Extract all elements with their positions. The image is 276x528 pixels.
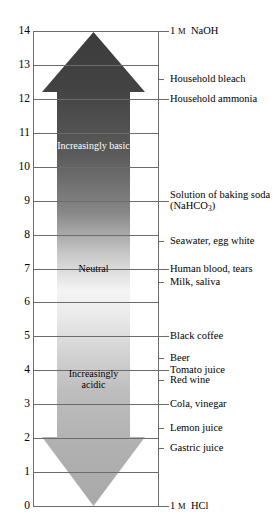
substance-label-5: Human blood, tears <box>170 263 253 275</box>
arrow-caption-0: Increasingly basic <box>57 141 130 153</box>
arrow-caption-1: Neutral <box>57 263 130 275</box>
gridline-ph-8 <box>33 235 159 236</box>
axis-tick-label-8: 8 <box>2 229 30 241</box>
tick-0 <box>158 31 169 32</box>
substance-label-14: 1 M HCl <box>170 500 208 513</box>
gridline-ph-11 <box>33 133 159 134</box>
axis-tick-label-4: 4 <box>2 365 30 377</box>
tick-12 <box>158 428 164 429</box>
axis-tick-label-7: 7 <box>2 263 30 275</box>
substance-label-12: Lemon juice <box>170 422 223 434</box>
gridline-ph-14 <box>33 31 159 32</box>
axis-tick-label-10: 10 <box>2 161 30 173</box>
ph-scale-figure: 141312111098765432101 M NaOHHousehold bl… <box>0 0 276 528</box>
tick-9 <box>158 370 169 371</box>
axis-tick-label-2: 2 <box>2 432 30 444</box>
substance-label-7: Black coffee <box>170 331 223 343</box>
substance-label-6: Milk, saliva <box>170 276 220 288</box>
tick-10 <box>158 380 164 381</box>
substance-label-13: Gastric juice <box>170 443 223 455</box>
gridline-ph-1 <box>33 472 159 473</box>
gridline-ph-10 <box>33 167 159 168</box>
tick-13 <box>158 448 164 449</box>
axis-tick-label-9: 9 <box>2 195 30 207</box>
tick-8 <box>158 358 164 359</box>
substance-label-8: Beer <box>170 353 190 365</box>
tick-2 <box>158 99 169 100</box>
tick-3 <box>158 201 169 202</box>
axis-tick-label-13: 13 <box>2 59 30 71</box>
gridline-ph-2 <box>33 438 159 439</box>
tick-6 <box>158 282 164 283</box>
axis-tick-label-5: 5 <box>2 331 30 343</box>
substance-label-1: Household bleach <box>170 73 246 85</box>
tick-11 <box>158 404 169 405</box>
axis-tick-label-1: 1 <box>2 466 30 478</box>
substance-label-0: 1 M NaOH <box>170 25 218 38</box>
axis-tick-label-3: 3 <box>2 398 30 410</box>
tick-4 <box>158 241 164 242</box>
tick-1 <box>158 79 164 80</box>
axis-tick-label-14: 14 <box>2 25 30 37</box>
substance-label-4: Seawater, egg white <box>170 236 254 248</box>
axis-tick-label-0: 0 <box>2 500 30 512</box>
gridline-ph-12 <box>33 99 159 100</box>
gridline-ph-3 <box>33 404 159 405</box>
tick-14 <box>158 506 169 507</box>
substance-label-2: Household ammonia <box>170 93 257 105</box>
substance-label-3: Solution of baking soda (NaHCO3) <box>170 189 274 213</box>
tick-5 <box>158 269 169 270</box>
substance-label-10: Red wine <box>170 375 210 387</box>
arrow-caption-2: Increasingly acidic <box>57 367 130 390</box>
gridline-ph-13 <box>33 65 159 66</box>
axis-tick-label-12: 12 <box>2 93 30 105</box>
gridline-ph-5 <box>33 336 159 337</box>
gridline-ph-0 <box>33 506 159 507</box>
gridline-ph-9 <box>33 201 159 202</box>
axis-tick-label-11: 11 <box>2 127 30 139</box>
axis-tick-label-6: 6 <box>2 297 30 309</box>
gridline-ph-6 <box>33 302 159 303</box>
substance-label-11: Cola, vinegar <box>170 398 227 410</box>
tick-7 <box>158 336 169 337</box>
